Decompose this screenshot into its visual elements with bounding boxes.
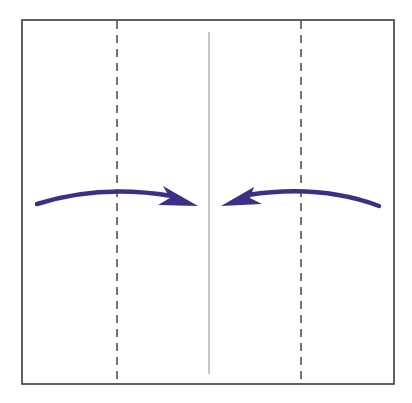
paper-square	[22, 20, 394, 384]
fold-diagram	[0, 0, 412, 403]
